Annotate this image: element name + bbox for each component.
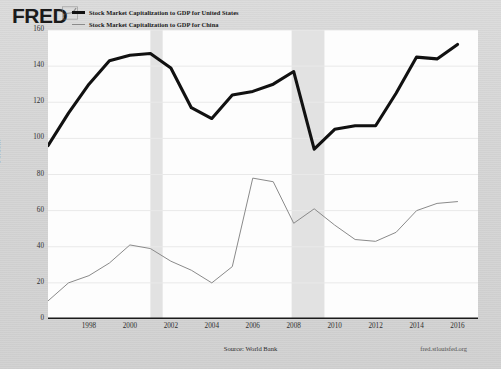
y-tick-0: 0 [10,314,44,322]
plot-area [48,30,478,319]
x-tick-2004: 2004 [205,322,219,330]
y-tick-60: 60 [10,206,44,214]
x-tick-1998: 1998 [82,322,96,330]
x-tick-2016: 2016 [450,322,464,330]
x-tick-2002: 2002 [164,322,178,330]
fred-logo: FRED [12,5,67,26]
x-tick-2008: 2008 [287,322,301,330]
y-tick-20: 20 [10,278,44,286]
y-tick-80: 80 [10,170,44,178]
y-tick-160: 160 [10,25,44,33]
x-axis-tick-labels: 1998200020022004200620082010201220142016 [48,322,478,336]
legend-label-china: Stock Market Capitalization to GDP for C… [89,21,219,28]
legend-swatch-icon-us [72,11,85,14]
series-line-us[interactable] [48,44,458,149]
y-tick-140: 140 [10,61,44,69]
x-tick-2000: 2000 [123,322,137,330]
x-tick-2006: 2006 [246,322,260,330]
fred-url[interactable]: fred.stlouisfed.org [420,345,467,352]
y-tick-120: 120 [10,97,44,105]
y-axis-tick-labels: 020406080100120140160 [6,30,44,319]
x-tick-2014: 2014 [409,322,423,330]
chart-header: FRED Stock Market Capitalization to GDP … [0,0,501,30]
legend-item-us[interactable]: Stock Market Capitalization to GDP for U… [72,7,372,17]
y-axis-title: Percent [0,139,2,163]
x-tick-2010: 2010 [327,322,341,330]
legend-swatch-icon-china [72,24,85,25]
legend-item-china[interactable]: Stock Market Capitalization to GDP for C… [72,19,372,29]
y-tick-100: 100 [10,133,44,141]
chart-legend: Stock Market Capitalization to GDP for U… [72,7,372,31]
chart-footer: Source: World Bank fred.stlouisfed.org [0,345,501,361]
line-chart-canvas [48,30,478,319]
legend-label-us: Stock Market Capitalization to GDP for U… [89,9,239,16]
x-tick-2012: 2012 [368,322,382,330]
fred-chart-screenshot: FRED Stock Market Capitalization to GDP … [0,0,501,369]
y-tick-40: 40 [10,242,44,250]
